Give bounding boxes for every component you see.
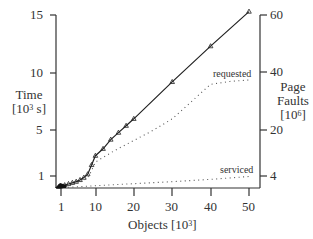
series-label-requested: requested <box>213 68 251 79</box>
x-tick-20: 20 <box>127 199 140 215</box>
y2-tick-40: 40 <box>270 64 283 80</box>
series-time-line <box>59 12 249 187</box>
y-tick-5: 5 <box>36 122 43 138</box>
series-layer <box>55 9 251 188</box>
y-axis-title: Time [103 s] <box>10 88 48 116</box>
x-tick-30: 30 <box>165 199 178 215</box>
y2-axis-title-line2: Faults <box>274 94 312 108</box>
x-axis-title: Objects [103] <box>128 218 197 232</box>
y-axis-title-line2: [103 s] <box>10 102 48 116</box>
y-tick-10: 10 <box>30 65 43 81</box>
x-tick-10: 10 <box>89 199 102 215</box>
triangle-marker-icon <box>247 9 252 13</box>
y-axis-title-line1: Time <box>10 88 48 102</box>
y2-axis-title-line3: [106] <box>274 108 312 122</box>
x-tick-50: 50 <box>242 199 255 215</box>
y2-tick-20: 20 <box>270 122 283 138</box>
x-tick-40: 40 <box>204 199 217 215</box>
y2-tick-60: 60 <box>270 7 283 23</box>
y2-axis-title-line1: Page <box>274 80 312 94</box>
x-tick-1: 1 <box>58 199 65 215</box>
y-tick-1: 1 <box>38 168 45 184</box>
chart-plot <box>0 0 313 239</box>
y2-tick-4: 4 <box>270 168 277 184</box>
y-tick-15: 15 <box>30 7 43 23</box>
series-serviced-line <box>59 176 249 187</box>
y2-axis-title: Page Faults [106] <box>274 80 312 122</box>
series-label-serviced: serviced <box>220 164 253 175</box>
